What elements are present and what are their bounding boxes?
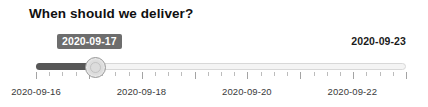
slider-tick <box>36 72 37 79</box>
slider-control[interactable] <box>36 60 406 86</box>
page-title: When should we deliver? <box>29 6 193 21</box>
slider-tick <box>327 72 328 76</box>
axis-label: 2020-09-22 <box>328 86 378 97</box>
slider-handle[interactable] <box>85 57 106 78</box>
slider-tick <box>300 72 301 79</box>
slider-tick <box>314 72 315 76</box>
slider-tick <box>380 72 381 76</box>
slider-tick <box>366 72 367 76</box>
slider-tick <box>181 72 182 76</box>
slider-tick <box>49 72 50 76</box>
slider-tick <box>195 72 196 79</box>
slider-value-badge: 2020-09-17 <box>57 34 122 49</box>
axis-label: 2020-09-16 <box>11 86 61 97</box>
slider-tick <box>287 72 288 76</box>
slider-tick <box>155 72 156 76</box>
axis-label: 2020-09-18 <box>117 86 167 97</box>
slider-tick <box>247 72 248 79</box>
slider-tick <box>261 72 262 76</box>
slider-tick <box>62 72 63 76</box>
slider-tick <box>142 72 143 79</box>
axis-label: 2020-09-20 <box>222 86 272 97</box>
slider-tick <box>340 72 341 76</box>
slider-tick <box>234 72 235 76</box>
slider-tick <box>353 72 354 79</box>
slider-axis-labels: 2020-09-162020-09-182020-09-202020-09-22 <box>0 86 428 104</box>
date-range-slider-widget: When should we deliver? 2020-09-17 2020-… <box>0 0 428 107</box>
slider-tick <box>208 72 209 76</box>
slider-tick <box>274 72 275 76</box>
slider-tick <box>168 72 169 76</box>
slider-tick <box>129 72 130 76</box>
slider-max-label: 2020-09-23 <box>351 34 406 49</box>
slider-tick <box>221 72 222 76</box>
slider-tick <box>406 72 407 79</box>
slider-tick <box>76 72 77 76</box>
slider-tick <box>393 72 394 76</box>
slider-tick <box>115 72 116 76</box>
